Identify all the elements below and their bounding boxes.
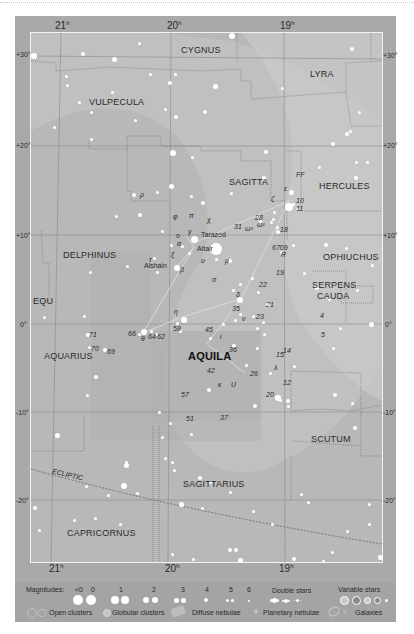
star[interactable] — [170, 150, 176, 156]
star[interactable] — [273, 211, 276, 214]
star[interactable] — [234, 319, 237, 322]
star[interactable] — [164, 108, 167, 111]
star[interactable] — [333, 393, 337, 397]
star[interactable] — [94, 375, 98, 379]
star[interactable] — [292, 557, 296, 561]
star[interactable] — [169, 184, 174, 189]
star[interactable] — [33, 506, 37, 510]
star[interactable] — [222, 323, 225, 326]
star[interactable] — [332, 347, 335, 350]
star[interactable] — [318, 166, 321, 169]
star[interactable] — [132, 193, 136, 197]
star-chart-map[interactable]: CYGNUS LYRA VULPECULA SAGITTA HERCULES D… — [30, 32, 383, 563]
star[interactable] — [346, 530, 349, 533]
star[interactable] — [356, 289, 359, 292]
star[interactable] — [107, 494, 110, 497]
star[interactable] — [281, 87, 284, 90]
star[interactable] — [349, 130, 352, 133]
star[interactable] — [134, 119, 137, 122]
star[interactable] — [115, 215, 118, 218]
star[interactable] — [350, 47, 354, 51]
star[interactable] — [38, 529, 41, 532]
star[interactable] — [149, 73, 152, 76]
star[interactable] — [368, 523, 371, 526]
star[interactable] — [179, 502, 184, 507]
star[interactable] — [355, 161, 358, 164]
star[interactable] — [203, 110, 207, 114]
star[interactable] — [331, 142, 335, 146]
star[interactable] — [256, 347, 259, 350]
star[interactable] — [171, 461, 174, 464]
star[interactable] — [126, 265, 129, 268]
star[interactable] — [78, 101, 81, 104]
star[interactable] — [239, 283, 242, 286]
star[interactable] — [293, 365, 296, 368]
star[interactable] — [207, 388, 211, 392]
star[interactable] — [119, 523, 122, 526]
star[interactable] — [253, 404, 257, 408]
star[interactable] — [90, 138, 93, 141]
star[interactable] — [303, 272, 306, 275]
star[interactable] — [292, 244, 295, 247]
star[interactable] — [322, 560, 325, 563]
star[interactable] — [121, 483, 127, 489]
star[interactable] — [201, 507, 204, 510]
star[interactable] — [55, 433, 60, 438]
star[interactable] — [153, 257, 156, 260]
star[interactable] — [138, 213, 142, 217]
star[interactable] — [369, 322, 374, 327]
star[interactable] — [263, 333, 266, 336]
star[interactable] — [164, 457, 167, 460]
star[interactable] — [174, 115, 178, 119]
star[interactable] — [256, 327, 259, 330]
star[interactable] — [112, 57, 117, 62]
star[interactable] — [86, 394, 89, 397]
star[interactable] — [170, 244, 173, 247]
star[interactable] — [156, 191, 159, 194]
star[interactable] — [269, 372, 272, 375]
star-tarazed[interactable] — [191, 236, 198, 243]
star-vega-area[interactable] — [229, 33, 235, 39]
star[interactable] — [161, 436, 164, 439]
star[interactable] — [201, 201, 205, 205]
star[interactable] — [271, 523, 274, 526]
star-epsilon-aquilae[interactable] — [289, 190, 294, 195]
star[interactable] — [73, 519, 76, 522]
star[interactable] — [161, 230, 164, 233]
star[interactable] — [353, 426, 357, 430]
star[interactable] — [213, 84, 218, 89]
star[interactable] — [89, 271, 92, 274]
star[interactable] — [300, 493, 303, 496]
star[interactable] — [215, 258, 218, 261]
star[interactable] — [209, 337, 212, 340]
star[interactable] — [351, 402, 354, 405]
star[interactable] — [111, 91, 114, 94]
star[interactable] — [345, 247, 348, 250]
star[interactable] — [345, 132, 349, 136]
star[interactable] — [190, 433, 193, 436]
star[interactable] — [270, 221, 273, 224]
star[interactable] — [339, 327, 342, 330]
star[interactable] — [366, 161, 369, 164]
star[interactable] — [158, 411, 161, 414]
star[interactable] — [354, 176, 358, 180]
star[interactable] — [190, 195, 193, 198]
star[interactable] — [307, 501, 310, 504]
star[interactable] — [31, 53, 37, 59]
star[interactable] — [188, 252, 191, 255]
star[interactable] — [43, 316, 46, 319]
star[interactable] — [136, 492, 139, 495]
star[interactable] — [229, 491, 232, 494]
star[interactable] — [286, 399, 290, 403]
star[interactable] — [232, 289, 235, 292]
star-eta-aquilae[interactable] — [181, 317, 187, 323]
star[interactable] — [124, 463, 129, 468]
star[interactable] — [262, 321, 265, 324]
star[interactable] — [358, 111, 361, 114]
star[interactable] — [65, 75, 68, 78]
star[interactable] — [238, 558, 243, 563]
star[interactable] — [156, 271, 159, 274]
star[interactable] — [292, 203, 295, 206]
star[interactable] — [368, 503, 371, 506]
star[interactable] — [230, 192, 233, 195]
